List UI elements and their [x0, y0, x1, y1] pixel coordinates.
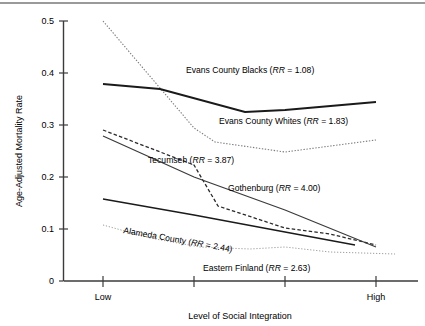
tecumseh-label: Tecumseh (RR = 3.87)	[148, 155, 234, 165]
x-tick-label-high: High	[367, 292, 386, 302]
evans-county-whites-label: Evans County Whites (RR = 1.83)	[219, 116, 348, 126]
x-tick-label-low: Low	[95, 292, 112, 302]
gothenburg-label: Gothenburg (RR = 4.00)	[228, 183, 321, 193]
eastern-finland-label: Eastern Finland (RR = 2.63)	[203, 263, 310, 273]
series-line-evans-county-whites	[103, 21, 376, 152]
series-line-evans-county-blacks	[103, 84, 376, 112]
figure-container: 0.5 0.4 0.3 0.2 0.1 0 Low High Level of …	[0, 0, 425, 326]
line-chart: 0.5 0.4 0.3 0.2 0.1 0 Low High Level of …	[0, 0, 425, 326]
x-axis-title: Level of Social Integration	[188, 311, 292, 321]
alameda-county-label: Alameda County (RR = 2.44)	[123, 225, 234, 254]
y-tick-label-0.5: 0.5	[41, 16, 54, 26]
y-tick-label-0.4: 0.4	[41, 68, 54, 78]
y-tick-label-0: 0	[49, 276, 54, 286]
y-axis-title: Age-Adjusted Mortality Rate	[14, 95, 24, 207]
y-tick-label-0.2: 0.2	[41, 172, 54, 182]
y-tick-label-0.3: 0.3	[41, 120, 54, 130]
y-tick-label-0.1: 0.1	[41, 224, 54, 234]
evans-county-blacks-label: Evans County Blacks (RR = 1.08)	[186, 65, 314, 75]
